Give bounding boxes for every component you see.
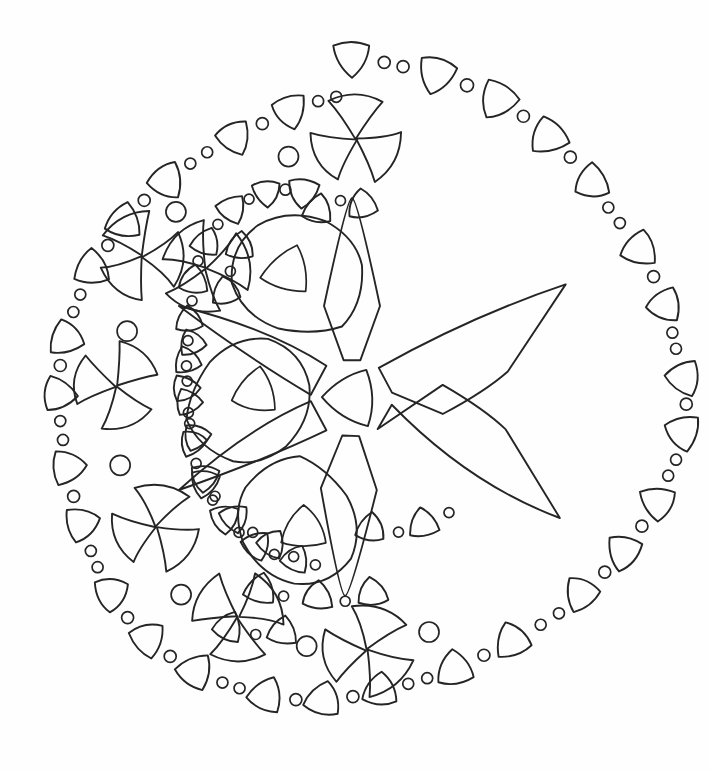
artwork-canvas: [0, 0, 709, 771]
paper-background: [0, 0, 709, 771]
mandala-drawing: [0, 0, 709, 771]
